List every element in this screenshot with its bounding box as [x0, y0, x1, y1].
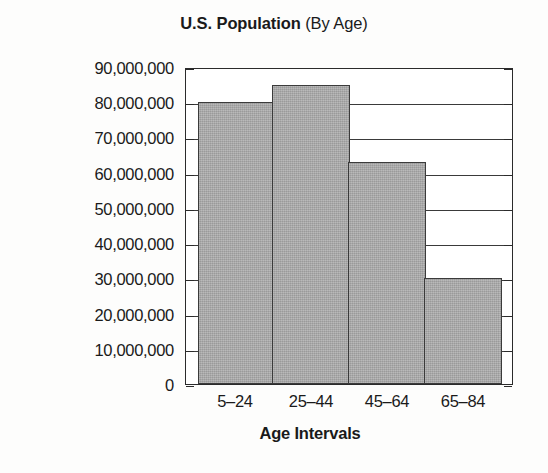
bar: [272, 85, 350, 384]
y-axis-tick-label: 70,000,000: [94, 128, 174, 148]
chart-figure: U.S. Population (By Age) Frequency 010,0…: [0, 0, 548, 473]
x-axis-tick-label: 25–44: [273, 390, 349, 412]
y-axis-tick-label: 30,000,000: [94, 269, 174, 289]
y-axis-tick-label: 50,000,000: [94, 199, 174, 219]
y-axis-tick-labels: 010,000,00020,000,00030,000,00040,000,00…: [38, 58, 180, 406]
y-axis-tick-label: 10,000,000: [94, 340, 174, 360]
x-axis-title: Age Intervals: [110, 424, 510, 443]
bars-group: [186, 69, 512, 384]
x-axis-tick-label: 65–84: [425, 390, 501, 412]
bar: [348, 162, 426, 384]
bar: [424, 278, 502, 384]
y-axis-tick-mark: [504, 386, 512, 387]
y-axis-tick-mark: [186, 386, 194, 387]
y-axis-tick-label: 60,000,000: [94, 164, 174, 184]
y-axis-tick-label: 20,000,000: [94, 305, 174, 325]
chart-title-main: U.S. Population: [180, 14, 300, 32]
y-axis-tick-label: 80,000,000: [94, 93, 174, 113]
x-axis-tick-label: 5–24: [197, 390, 273, 412]
y-axis-tick-label: 40,000,000: [94, 234, 174, 254]
bar: [198, 102, 274, 384]
x-axis-tick-label: 45–64: [349, 390, 425, 412]
chart-title: U.S. Population (By Age): [0, 14, 548, 33]
plot-area: [185, 68, 513, 385]
chart-title-subtitle: (By Age): [305, 14, 367, 32]
x-axis-tick-labels: 5–2425–4445–6465–84: [185, 390, 513, 414]
y-axis-tick-label: 90,000,000: [94, 58, 174, 78]
y-axis-tick-label: 0: [165, 375, 174, 395]
